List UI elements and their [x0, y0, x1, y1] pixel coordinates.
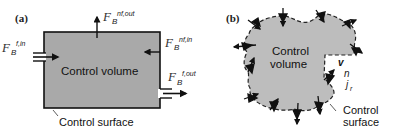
- diagram-canvas: (a) F B f,in F B nf,out: [0, 0, 393, 136]
- flux-label-nf-in: F B nf,in: [164, 35, 192, 52]
- flux-label-nf-out: F B nf,out: [102, 9, 136, 26]
- svg-text:B: B: [11, 48, 17, 57]
- svg-text:F: F: [167, 69, 177, 84]
- svg-text:nf,in: nf,in: [179, 36, 192, 43]
- surface-leader-line: [53, 110, 58, 116]
- panel-a: (a) F B f,in F B nf,out: [1, 9, 197, 128]
- svg-text:f,in: f,in: [16, 40, 25, 47]
- outlet-channel: [158, 89, 186, 98]
- vector-n-label: n: [344, 68, 350, 79]
- blob-volume-label-2: volume: [270, 58, 307, 70]
- blob-surface-label-2: surface: [343, 116, 379, 128]
- blob-surface-label-1: Control: [343, 104, 378, 116]
- panel-a-label: (a): [15, 12, 28, 25]
- vector-v-label: v: [338, 57, 345, 68]
- panel-b: (b) Control volume v n j r Control surfa…: [226, 8, 379, 128]
- flux-label-f-in: F B f,in: [1, 40, 25, 57]
- vector-j-sub-label: r: [350, 85, 353, 92]
- svg-text:F: F: [164, 35, 174, 50]
- vector-j-label: j: [344, 79, 349, 90]
- control-volume-label: Control volume: [61, 65, 138, 77]
- blob-volume-label-1: Control: [272, 45, 309, 57]
- surface-leader-line-b: [330, 104, 336, 111]
- panel-b-label: (b): [226, 12, 240, 25]
- svg-text:B: B: [177, 78, 183, 87]
- flux-label-f-out: F B f,out: [167, 69, 197, 87]
- svg-text:B: B: [112, 17, 118, 26]
- svg-text:nf,out: nf,out: [117, 10, 136, 17]
- svg-text:B: B: [174, 43, 180, 52]
- svg-text:F: F: [1, 40, 11, 55]
- control-surface-label: Control surface: [59, 116, 134, 128]
- svg-text:F: F: [102, 9, 112, 24]
- svg-text:f,out: f,out: [182, 70, 197, 77]
